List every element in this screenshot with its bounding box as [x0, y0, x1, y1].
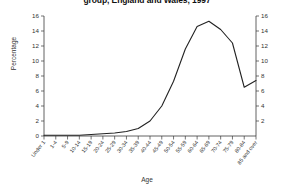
data-line-percentage: [44, 21, 256, 135]
x-axis-label: Age: [0, 176, 294, 183]
svg-text:25-29: 25-29: [104, 139, 117, 154]
svg-text:12: 12: [32, 42, 39, 49]
svg-text:2: 2: [261, 117, 265, 124]
svg-text:15-19: 15-19: [80, 139, 93, 154]
svg-text:10: 10: [32, 57, 39, 64]
svg-text:14: 14: [32, 27, 39, 34]
svg-text:16: 16: [261, 12, 268, 19]
svg-text:6: 6: [261, 87, 265, 94]
data-series: [44, 21, 256, 135]
svg-text:60-64: 60-64: [186, 139, 199, 154]
svg-text:12: 12: [261, 42, 268, 49]
x-axis: Under 11-45-910-1415-1920-2425-2930-3435…: [30, 136, 259, 166]
svg-text:10: 10: [261, 57, 268, 64]
svg-text:6: 6: [36, 87, 40, 94]
svg-text:40-44: 40-44: [139, 139, 152, 154]
svg-text:20-24: 20-24: [92, 139, 105, 154]
svg-text:75-79: 75-79: [222, 139, 235, 154]
svg-text:10-14: 10-14: [68, 139, 81, 154]
svg-text:Under 1: Under 1: [30, 139, 47, 158]
svg-text:70-74: 70-74: [210, 139, 223, 154]
svg-text:45-49: 45-49: [151, 139, 164, 154]
left-axis: 0246810121416: [32, 12, 44, 139]
svg-text:55-59: 55-59: [174, 139, 187, 154]
svg-text:14: 14: [261, 27, 268, 34]
right-axis: 246810121416: [256, 12, 268, 136]
svg-text:65-69: 65-69: [198, 139, 211, 154]
svg-text:30-34: 30-34: [116, 139, 129, 154]
svg-text:5-9: 5-9: [60, 139, 70, 149]
svg-text:4: 4: [261, 102, 265, 109]
chart-plot-area: 0246810121416 246810121416 Under 11-45-9…: [0, 0, 294, 184]
svg-text:1-4: 1-4: [49, 139, 59, 149]
chart-container: group, England and Wales, 1997 Percentag…: [0, 0, 294, 184]
svg-text:2: 2: [36, 117, 40, 124]
svg-text:50-54: 50-54: [163, 139, 176, 154]
svg-text:8: 8: [261, 72, 265, 79]
svg-text:0: 0: [36, 132, 40, 139]
svg-text:16: 16: [32, 12, 39, 19]
svg-text:35-39: 35-39: [127, 139, 140, 154]
svg-text:4: 4: [36, 102, 40, 109]
svg-text:8: 8: [36, 72, 40, 79]
